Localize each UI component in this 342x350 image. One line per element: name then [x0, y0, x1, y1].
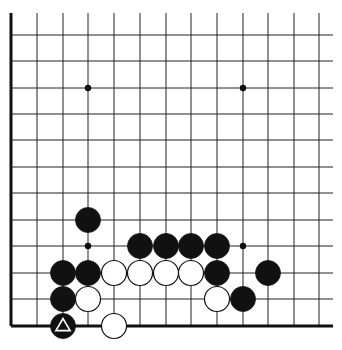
white-stone	[179, 261, 204, 286]
black-stone	[76, 261, 101, 286]
black-stone	[51, 287, 76, 312]
star-point	[240, 243, 246, 249]
black-stone	[205, 261, 230, 286]
white-stone	[205, 287, 230, 312]
white-stone	[102, 261, 127, 286]
white-stone	[76, 287, 101, 312]
black-stone	[76, 208, 101, 233]
black-stone	[154, 234, 179, 259]
black-stone	[51, 261, 76, 286]
go-board	[0, 0, 342, 350]
star-point	[85, 243, 91, 249]
white-stone	[128, 261, 153, 286]
black-stone	[179, 234, 204, 259]
black-stone	[128, 234, 153, 259]
black-stone	[205, 234, 230, 259]
star-point	[240, 85, 246, 91]
star-point	[85, 85, 91, 91]
white-stone	[154, 261, 179, 286]
black-stone	[51, 314, 76, 339]
white-stone	[102, 314, 127, 339]
black-stone	[231, 287, 256, 312]
black-stone	[256, 261, 281, 286]
